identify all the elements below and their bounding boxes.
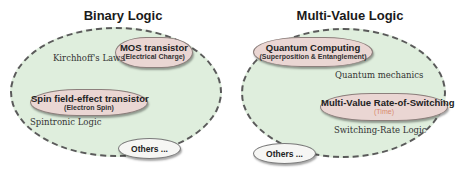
electrical-charge-label: (Electrical Charge)	[116, 53, 192, 60]
quantum-computing-cloud: Quantum Computing (Superposition & Entan…	[253, 37, 373, 67]
quantum-mechanics-label: Quantum mechanics	[335, 70, 423, 80]
rate-of-switching-cloud: Multi-Value Rate-of-Switching (Time)	[320, 93, 448, 121]
spin-fet-label: Spin field-effect transistor	[31, 93, 147, 104]
kirchhoffs-laws-label: Kirchhoff's Laws	[53, 53, 125, 63]
time-label: (Time)	[321, 108, 447, 115]
spin-fet-cloud: Spin field-effect transistor (Electron S…	[30, 89, 148, 116]
quantum-computing-label: Quantum Computing	[254, 42, 372, 53]
right-others-bubble: Others ...	[253, 143, 316, 164]
binary-logic-title: Binary Logic	[78, 8, 168, 23]
electron-spin-label: (Electron Spin)	[31, 104, 147, 111]
superposition-entanglement-label: (Superposition & Entanglement)	[254, 53, 372, 60]
switching-rate-logic-label: Switching-Rate Logic	[334, 125, 426, 135]
multi-value-logic-title: Multi-Value Logic	[290, 8, 410, 23]
mos-transistor-cloud: MOS transistor (Electrical Charge)	[115, 37, 193, 68]
spintronic-logic-label: Spintronic Logic	[30, 117, 101, 127]
rate-of-switching-label: Multi-Value Rate-of-Switching	[321, 97, 447, 108]
mos-transistor-label: MOS transistor	[116, 42, 192, 53]
left-others-bubble: Others ...	[118, 138, 181, 159]
